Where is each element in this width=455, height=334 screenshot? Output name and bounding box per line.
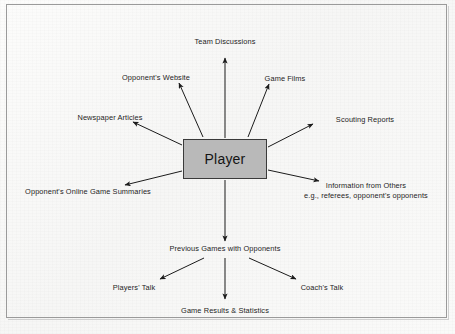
arrow-to-game-films [248, 84, 269, 137]
node-game-results-and-statistics[interactable]: Game Results & Statistics [181, 306, 269, 315]
arrow-to-scouting-reports [268, 124, 313, 147]
center-node-player[interactable]: Player [183, 139, 267, 179]
center-node-label: Player [205, 151, 246, 167]
node-coachs-talk[interactable]: Coach's Talk [301, 283, 344, 292]
node-scouting-reports[interactable]: Scouting Reports [336, 115, 394, 124]
node-opponents-online-game-summaries[interactable]: Opponent's Online Game Summaries [25, 187, 151, 196]
node-information-from-others-detail[interactable]: e.g., referees, opponent's opponents [304, 191, 428, 200]
node-information-from-others-title[interactable]: Information from Others [326, 181, 406, 190]
node-players-talk[interactable]: Players' Talk [113, 283, 155, 292]
arrow-to-opponents-website [179, 83, 203, 137]
node-newspaper-articles[interactable]: Newspaper Articles [77, 113, 142, 122]
arrow-to-newspaper-articles [133, 122, 182, 145]
arrow-to-players-talk [160, 258, 204, 279]
node-previous-games-with-opponents[interactable]: Previous Games with Opponents [170, 244, 281, 253]
node-team-discussions[interactable]: Team Discussions [194, 37, 255, 46]
diagram-canvas: Player Team Discussions Opponent's Websi… [0, 0, 455, 334]
node-opponents-website[interactable]: Opponent's Website [122, 73, 190, 82]
node-game-films[interactable]: Game Films [265, 74, 306, 83]
arrow-to-opponents-online-game-summaries [125, 171, 182, 185]
arrow-to-information-from-others [268, 170, 319, 181]
arrow-to-coachs-talk [249, 258, 296, 279]
